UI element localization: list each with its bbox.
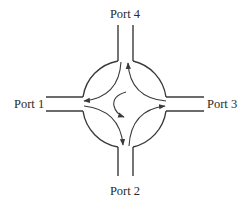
port3-arm [166,97,204,111]
junction-body [83,61,166,147]
flow-arrow-4-to-1 [84,62,121,101]
rotation-arrow-icon [114,92,126,117]
flow-arrow-2-to-3 [129,106,165,146]
port4-arm [118,25,133,61]
port1-label: Port 1 [14,97,44,111]
port1-arm [46,97,83,111]
port2-arm [118,147,133,176]
circulator-diagram: Port 4 Port 2 Port 1 Port 3 [0,0,247,201]
flow-arrows [84,62,166,146]
port4-label: Port 4 [110,7,141,21]
port2-label: Port 2 [110,184,140,198]
port3-label: Port 3 [207,97,237,111]
